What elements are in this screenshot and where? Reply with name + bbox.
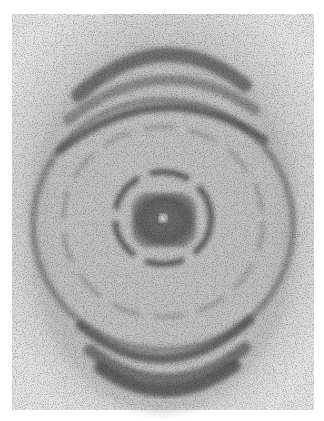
diffraction-figure [0,0,324,421]
film-grain [12,14,314,410]
diffraction-pattern-image [0,0,324,421]
